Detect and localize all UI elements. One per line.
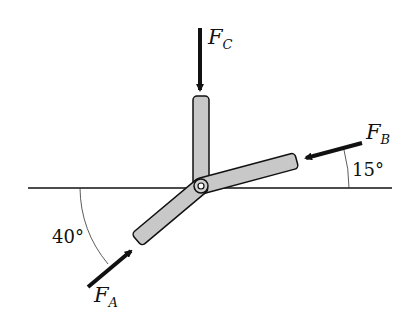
angle-arc-a bbox=[80, 188, 108, 264]
force-label-c: FC bbox=[207, 25, 233, 52]
force-arrow-a bbox=[88, 251, 131, 287]
member-c bbox=[193, 96, 209, 188]
angle-label-b: 15° bbox=[352, 159, 384, 180]
angle-arc-b bbox=[344, 150, 349, 188]
force-label-a: FA bbox=[93, 283, 118, 310]
force-diagram: FC FB 15° 40° FA bbox=[0, 0, 417, 325]
force-label-b: FB bbox=[365, 120, 390, 147]
pin-joint bbox=[194, 179, 208, 193]
angle-label-a: 40° bbox=[52, 226, 84, 247]
force-arrow-b bbox=[306, 143, 362, 158]
